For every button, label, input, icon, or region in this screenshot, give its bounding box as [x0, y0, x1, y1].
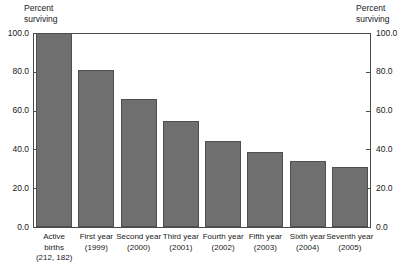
y-tick-label-right: 0.0	[376, 223, 388, 232]
y-tick-label-left: 0.0	[17, 223, 29, 232]
y-tick-right	[366, 72, 370, 73]
plot-area	[33, 33, 371, 228]
y-tick-label-right: 20.0	[376, 184, 393, 193]
y-tick-label-right: 100.0	[376, 29, 397, 38]
y-tick-label-left: 60.0	[12, 106, 29, 115]
y-tick-label-right: 60.0	[376, 106, 393, 115]
bar	[36, 33, 72, 227]
axis-line-left	[33, 33, 34, 228]
right-axis-caption: Percent surviving	[356, 3, 390, 24]
left-axis-caption: Percent surviving	[24, 3, 58, 24]
bar	[163, 121, 199, 227]
y-tick-label-left: 80.0	[12, 67, 29, 76]
axis-line-top	[33, 33, 371, 34]
bar	[247, 152, 283, 227]
bar-chart: Percent surviving Percent surviving 0.00…	[0, 0, 408, 276]
y-tick-right	[366, 111, 370, 112]
axis-line-bottom	[33, 227, 371, 228]
axis-line-right	[370, 33, 371, 228]
bar	[78, 70, 114, 227]
bar	[205, 141, 241, 227]
bar	[290, 161, 326, 227]
bar	[332, 167, 368, 227]
y-tick-label-left: 40.0	[12, 145, 29, 154]
category-label: Seventh year (2005)	[324, 232, 376, 253]
y-tick-label-left: 20.0	[12, 184, 29, 193]
y-tick-right	[366, 149, 370, 150]
y-tick-label-right: 80.0	[376, 67, 393, 76]
y-tick-label-right: 40.0	[376, 145, 393, 154]
y-tick-label-left: 100.0	[8, 29, 29, 38]
bar	[121, 99, 157, 227]
